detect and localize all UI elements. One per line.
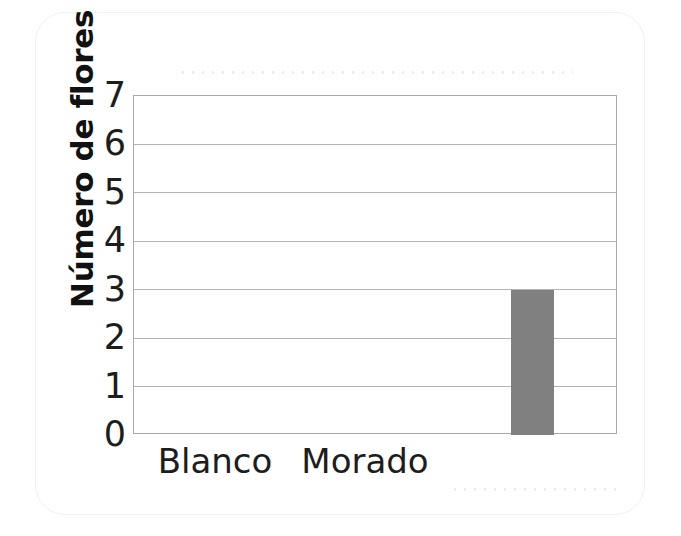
y-axis-tick-label: 1 [86, 368, 126, 403]
y-axis-tick-label: 7 [86, 78, 126, 113]
y-axis-tick-label: 3 [86, 271, 126, 306]
x-axis-tick-label-morado: Morado [301, 444, 428, 478]
y-axis-tick-labels: 01234567 [78, 95, 126, 434]
y-axis-tick-label: 2 [86, 320, 126, 355]
chart-page: Número de flores 01234567 BlancoMorado [0, 0, 681, 536]
y-axis-tick-label: 6 [86, 126, 126, 161]
plot-area [133, 95, 617, 434]
bar-morado [511, 290, 554, 435]
gridline [134, 241, 616, 242]
y-axis-tick-label: 4 [86, 223, 126, 258]
bar-chart: Número de flores 01234567 BlancoMorado [0, 0, 681, 536]
gridline [134, 192, 616, 193]
y-axis-tick-label: 0 [86, 417, 126, 452]
gridline [134, 144, 616, 145]
x-axis-tick-label-blanco: Blanco [158, 444, 273, 478]
y-axis-tick-label: 5 [86, 174, 126, 209]
